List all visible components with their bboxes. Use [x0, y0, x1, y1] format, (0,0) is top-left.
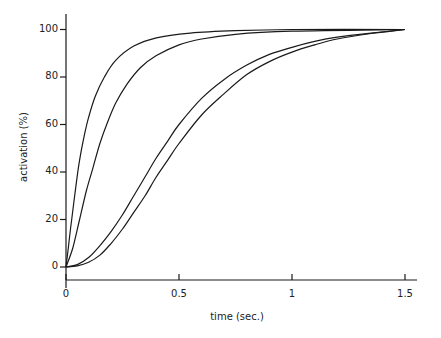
y-tick-label: 20 [45, 213, 58, 224]
y-axis: 020406080100 [39, 14, 66, 288]
x-axis-title: time (sec.) [210, 311, 264, 322]
x-tick-label: 1.5 [397, 288, 413, 299]
plot-curves [66, 29, 405, 267]
series-line-1 [66, 29, 405, 267]
activation-chart: 020406080100 00.511.5 activation (%) tim… [0, 0, 441, 338]
y-axis-title: activation (%) [18, 112, 29, 182]
x-tick-label: 0 [63, 288, 69, 299]
x-tick-label: 0.5 [171, 288, 187, 299]
series-line-3 [66, 30, 405, 268]
x-tick-label: 1 [289, 288, 295, 299]
y-tick-label: 60 [45, 118, 58, 129]
y-tick-label: 80 [45, 70, 58, 81]
y-tick-label: 0 [52, 260, 58, 271]
y-tick-label: 40 [45, 165, 58, 176]
series-line-4 [66, 30, 405, 268]
x-axis: 00.511.5 [63, 274, 417, 299]
series-line-2 [66, 30, 405, 268]
y-tick-label: 100 [39, 23, 58, 34]
